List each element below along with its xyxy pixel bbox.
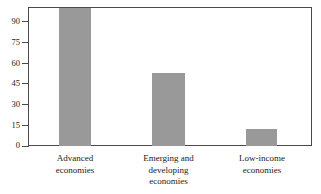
bar-low-income-economies bbox=[246, 129, 277, 146]
x-category-label-low-income-economies: Low-income economies bbox=[222, 153, 302, 176]
x-category-label-line: developing bbox=[127, 165, 210, 177]
bar-advanced-economies bbox=[59, 8, 91, 146]
y-tick-label-90: 90 bbox=[0, 17, 20, 26]
y-tick-mark-30 bbox=[22, 104, 29, 105]
y-tick-mark-15 bbox=[22, 125, 29, 126]
x-category-label-advanced-economies: Advanced economies bbox=[35, 153, 115, 176]
x-category-label-line: economies bbox=[127, 176, 210, 188]
y-tick-mark-75 bbox=[22, 42, 29, 43]
y-tick-label-75: 75 bbox=[0, 38, 20, 47]
y-tick-mark-45 bbox=[22, 83, 29, 84]
y-tick-mark-0 bbox=[22, 146, 29, 147]
bar-chart-figure: 90 75 60 45 30 15 0 Advanced economies E… bbox=[0, 0, 321, 194]
bar-emerging-and-developing-economies bbox=[152, 73, 185, 146]
y-tick-label-45: 45 bbox=[0, 79, 20, 88]
y-tick-label-60: 60 bbox=[0, 59, 20, 68]
y-tick-mark-90 bbox=[22, 21, 29, 22]
x-category-label-emerging-and-developing-economies: Emerging and developing economies bbox=[127, 153, 210, 188]
y-tick-label-0: 0 bbox=[0, 141, 20, 150]
x-category-label-line: Advanced bbox=[35, 153, 115, 165]
x-category-label-line: economies bbox=[35, 165, 115, 177]
y-tick-mark-60 bbox=[22, 63, 29, 64]
x-category-label-line: economies bbox=[222, 165, 302, 177]
y-tick-label-30: 30 bbox=[0, 100, 20, 109]
y-tick-label-15: 15 bbox=[0, 121, 20, 130]
x-category-label-line: Emerging and bbox=[127, 153, 210, 165]
x-category-label-line: Low-income bbox=[222, 153, 302, 165]
